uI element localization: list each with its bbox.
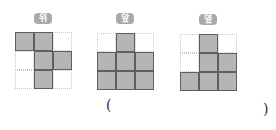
filled-cell (97, 52, 116, 71)
front-view-grid (97, 33, 154, 90)
answer-open-paren: ( (106, 97, 111, 113)
filled-cell (199, 72, 218, 91)
filled-cell (53, 51, 72, 70)
filled-cell (97, 71, 116, 90)
empty-cell (218, 34, 237, 53)
filled-cell (218, 53, 237, 72)
top-view-grid (15, 32, 72, 89)
filled-cell (15, 32, 34, 51)
empty-cell (53, 70, 72, 89)
filled-cell (199, 53, 218, 72)
side-view-label: 옆 (199, 14, 217, 25)
empty-cell (15, 51, 34, 70)
empty-cell (180, 34, 199, 53)
filled-cell (116, 33, 135, 52)
empty-cell (15, 70, 34, 89)
answer-blank[interactable] (118, 99, 258, 115)
empty-cell (97, 33, 116, 52)
front-view-label: 앞 (116, 13, 134, 24)
filled-cell (180, 72, 199, 91)
filled-cell (116, 52, 135, 71)
top-view-label: 위 (34, 13, 52, 24)
empty-cell (135, 33, 154, 52)
filled-cell (34, 51, 53, 70)
filled-cell (218, 72, 237, 91)
filled-cell (199, 34, 218, 53)
filled-cell (116, 71, 135, 90)
answer-close-paren: ) (263, 101, 268, 117)
empty-cell (53, 32, 72, 51)
filled-cell (135, 71, 154, 90)
filled-cell (34, 70, 53, 89)
empty-cell (180, 53, 199, 72)
filled-cell (135, 52, 154, 71)
filled-cell (34, 32, 53, 51)
side-view-grid (180, 34, 237, 91)
